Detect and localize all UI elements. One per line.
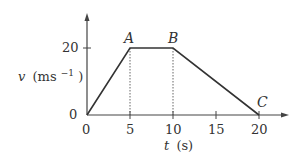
- point-label-b: B: [167, 30, 178, 46]
- y-tick-label-0: 0: [69, 107, 77, 122]
- velocity-time-graph: A B C 20 0 0 5 10 15 20 v (ms −1 ) t (s): [0, 0, 298, 155]
- x-axis-unit: (s): [176, 138, 193, 153]
- x-tick-label-20: 20: [251, 122, 268, 137]
- y-axis-title: v (ms −1 ): [18, 64, 83, 84]
- point-label-a: A: [122, 30, 134, 46]
- x-axis-arrow-icon: [281, 113, 289, 118]
- x-tick-label-10: 10: [165, 122, 182, 137]
- x-axis-var: t: [164, 138, 170, 153]
- y-axis-var: v: [18, 69, 26, 84]
- point-label-c: C: [257, 94, 268, 110]
- x-tick-label-15: 15: [208, 122, 225, 137]
- y-axis-unit-close: ): [78, 69, 83, 84]
- x-axis-title: t (s): [164, 138, 193, 153]
- y-tick-label-20: 20: [62, 40, 79, 55]
- y-axis-unit: (ms: [33, 69, 57, 84]
- x-tick-label-0: 0: [82, 122, 90, 137]
- x-tick-label-5: 5: [126, 122, 134, 137]
- y-axis-arrow-icon: [85, 13, 90, 21]
- y-axis-unit-exponent: −1: [61, 68, 74, 78]
